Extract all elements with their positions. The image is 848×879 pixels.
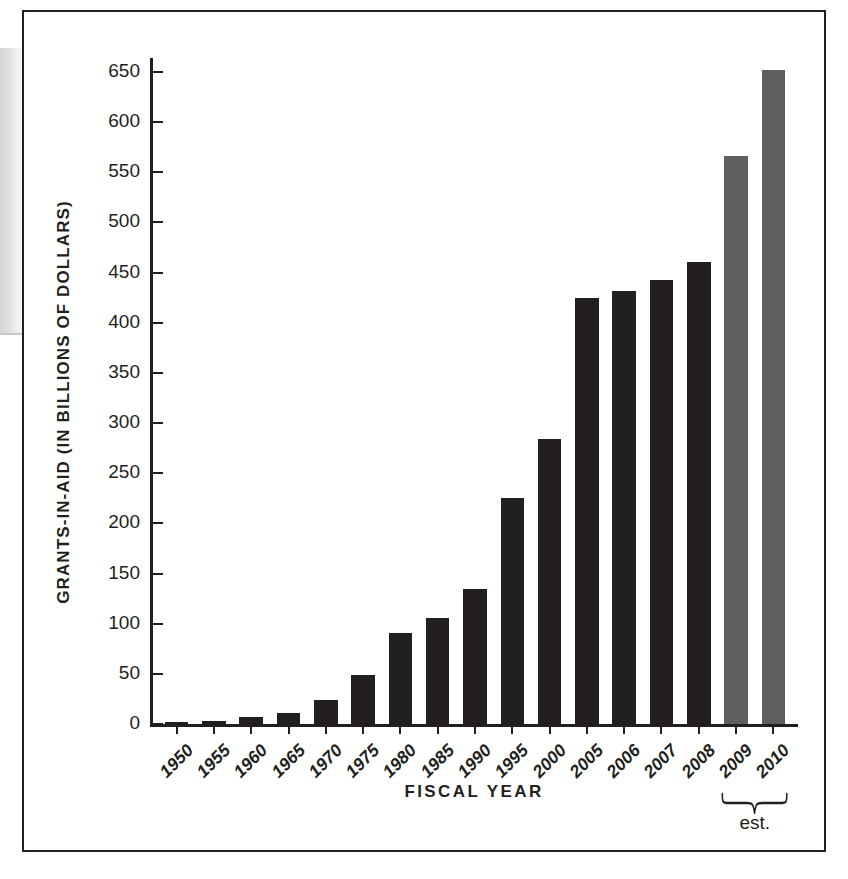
bar-slot-1985 bbox=[426, 0, 449, 724]
x-tick-2007 bbox=[660, 727, 662, 734]
bar-1985 bbox=[426, 618, 449, 724]
bar-1975 bbox=[351, 675, 374, 724]
bar-slot-1990 bbox=[463, 0, 486, 724]
x-tick-1950 bbox=[176, 727, 178, 734]
x-tick-2006 bbox=[623, 727, 625, 734]
bar-1970 bbox=[314, 700, 337, 724]
bar-1995 bbox=[501, 498, 524, 724]
x-axis-title: FISCAL YEAR bbox=[150, 782, 798, 802]
bar-slot-2006 bbox=[612, 0, 635, 724]
bar-slot-2009 bbox=[724, 0, 747, 724]
x-tick-1955 bbox=[213, 727, 215, 734]
bar-slot-2005 bbox=[575, 0, 598, 724]
x-tick-1995 bbox=[511, 727, 513, 734]
x-tick-2000 bbox=[549, 727, 551, 734]
bar-1960 bbox=[239, 717, 262, 724]
bar-2008 bbox=[687, 262, 710, 724]
bar-slot-1965 bbox=[277, 0, 300, 724]
bar-slot-1970 bbox=[314, 0, 337, 724]
bar-2007 bbox=[650, 280, 673, 724]
bar-2000 bbox=[538, 439, 561, 724]
x-tick-2009 bbox=[735, 727, 737, 734]
bar-slot-1995 bbox=[501, 0, 524, 724]
bar-1965 bbox=[277, 713, 300, 724]
x-tick-2005 bbox=[586, 727, 588, 734]
estimate-bracket-icon bbox=[721, 792, 788, 814]
bar-slot-1980 bbox=[389, 0, 412, 724]
x-tick-1975 bbox=[362, 727, 364, 734]
bar-2009 bbox=[724, 156, 747, 724]
bar-slot-2008 bbox=[687, 0, 710, 724]
bar-slot-2007 bbox=[650, 0, 673, 724]
bar-1990 bbox=[463, 589, 486, 724]
bar-chart: 050100150200250300350400450500550600650 … bbox=[0, 0, 848, 879]
bar-slot-2000 bbox=[538, 0, 561, 724]
x-tick-1960 bbox=[250, 727, 252, 734]
x-tick-2008 bbox=[698, 727, 700, 734]
x-tick-1970 bbox=[325, 727, 327, 734]
bar-2006 bbox=[612, 291, 635, 724]
bars-layer bbox=[0, 0, 848, 724]
estimate-label: est. bbox=[721, 812, 788, 834]
bar-slot-1975 bbox=[351, 0, 374, 724]
x-tick-1990 bbox=[474, 727, 476, 734]
bar-slot-2010 bbox=[762, 0, 785, 724]
bar-slot-1950 bbox=[165, 0, 188, 724]
x-tick-2010 bbox=[772, 727, 774, 734]
x-tick-1985 bbox=[437, 727, 439, 734]
bar-2010 bbox=[762, 70, 785, 724]
bar-slot-1955 bbox=[202, 0, 225, 724]
bar-slot-1960 bbox=[239, 0, 262, 724]
x-tick-1980 bbox=[399, 727, 401, 734]
bar-1980 bbox=[389, 633, 412, 724]
x-tick-1965 bbox=[288, 727, 290, 734]
bar-2005 bbox=[575, 298, 598, 724]
